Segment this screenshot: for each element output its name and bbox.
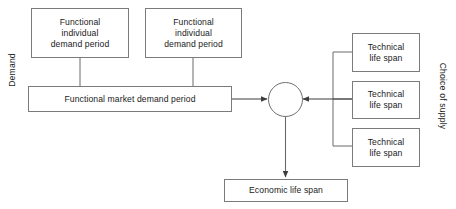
node-functional-individual-demand-2[interactable]: Functional individual demand period — [145, 8, 242, 58]
diagram-canvas: Demand Choice of supply Functional indiv… — [0, 0, 456, 209]
node-functional-market-demand-period[interactable]: Functional market demand period — [28, 86, 232, 112]
node-technical-life-span-2[interactable]: Technical life span — [352, 81, 420, 119]
node-line-2: individual — [48, 28, 113, 39]
node-junction-circle[interactable] — [268, 82, 303, 117]
node-line-3: demand period — [48, 39, 113, 50]
node-line-1: Functional — [161, 17, 226, 28]
node-technical-life-span-1[interactable]: Technical life span — [352, 33, 420, 72]
node-functional-individual-demand-1[interactable]: Functional individual demand period — [31, 8, 129, 58]
node-line-2: life span — [365, 148, 408, 159]
node-economic-life-span[interactable]: Economic life span — [224, 179, 348, 202]
node-technical-life-span-3[interactable]: Technical life span — [352, 128, 420, 167]
axis-label-demand: Demand — [7, 53, 17, 87]
node-line-1: Functional — [48, 17, 113, 28]
node-line-1: Technical — [365, 137, 408, 148]
axis-label-choice-of-supply: Choice of supply — [438, 63, 448, 130]
node-label: Functional market demand period — [61, 94, 198, 105]
node-line-2: individual — [161, 28, 226, 39]
node-line-1: Technical — [365, 42, 408, 53]
node-line-3: demand period — [161, 39, 226, 50]
node-line-1: Technical — [365, 89, 408, 100]
node-line-2: life span — [365, 53, 408, 64]
node-line-2: life span — [365, 100, 408, 111]
node-label: Economic life span — [246, 185, 326, 196]
